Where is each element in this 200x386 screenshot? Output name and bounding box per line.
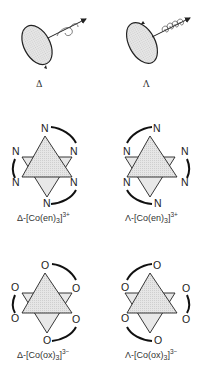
svg-text:O: O <box>121 312 129 324</box>
delta-co-ox-structure: O O O O O O <box>11 259 80 346</box>
delta-co-en-label: Δ-[Co(en)3]3+ <box>17 211 70 224</box>
lambda-co-en-structure: N N N N N N <box>123 122 189 209</box>
svg-text:N: N <box>70 145 78 157</box>
svg-text:N: N <box>181 145 189 157</box>
svg-text:N: N <box>12 145 20 157</box>
svg-text:N: N <box>153 122 161 134</box>
lambda-label: Λ <box>143 79 150 89</box>
lambda-co-ox-label: Λ-[Co(ox)3]3− <box>125 348 177 361</box>
delta-co-ox-label: Δ-[Co(ox)3]3− <box>17 348 69 361</box>
lambda-co-ox-structure: O O O O O O <box>121 259 190 346</box>
svg-text:O: O <box>154 334 162 346</box>
svg-text:O: O <box>182 313 190 325</box>
svg-text:N: N <box>123 176 131 188</box>
svg-text:N: N <box>70 176 78 188</box>
delta-label: Δ <box>36 79 43 89</box>
svg-text:O: O <box>153 259 161 271</box>
svg-text:N: N <box>123 145 131 157</box>
svg-text:O: O <box>121 281 129 293</box>
svg-text:O: O <box>41 259 49 271</box>
chirality-diagram: N N N N N N N N N N N N O O O O O O <box>0 0 200 386</box>
lambda-helix-icon <box>120 17 190 68</box>
svg-text:O: O <box>72 313 80 325</box>
svg-text:N: N <box>41 122 49 134</box>
svg-text:O: O <box>72 282 80 294</box>
delta-co-en-structure: N N N N N N <box>12 122 78 209</box>
svg-text:O: O <box>43 334 51 346</box>
svg-text:O: O <box>182 282 190 294</box>
svg-text:N: N <box>12 176 20 188</box>
delta-helix-icon <box>16 19 86 70</box>
lambda-co-en-label: Λ-[Co(en)3]3+ <box>125 211 178 224</box>
svg-text:N: N <box>43 197 51 209</box>
svg-text:N: N <box>154 197 162 209</box>
svg-text:O: O <box>11 281 19 293</box>
svg-text:O: O <box>11 312 19 324</box>
